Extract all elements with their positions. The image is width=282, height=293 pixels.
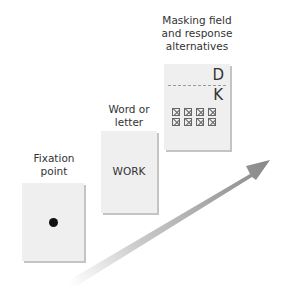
stage-label-fixation: Fixation point: [22, 152, 86, 178]
mask-icon: [196, 118, 204, 126]
alternative-d: D: [212, 66, 224, 84]
mask-icon: [184, 108, 192, 116]
stage-label-mask: Masking field and response alternatives: [158, 14, 236, 53]
mask-icon: [172, 118, 180, 126]
fixation-card: [22, 183, 84, 261]
word-card: WORK: [101, 131, 157, 213]
mask-icon: [208, 108, 216, 116]
mask-card: D K: [164, 64, 230, 150]
mask-icon: [172, 108, 180, 116]
mask-icon: [184, 118, 192, 126]
stage-label-word: Word or letter: [100, 103, 158, 129]
mask-grid: [172, 108, 217, 126]
stimulus-word: WORK: [101, 165, 157, 177]
alternative-k: K: [213, 86, 223, 104]
mask-icon: [208, 118, 216, 126]
fixation-dot: [49, 218, 58, 227]
mask-icon: [196, 108, 204, 116]
